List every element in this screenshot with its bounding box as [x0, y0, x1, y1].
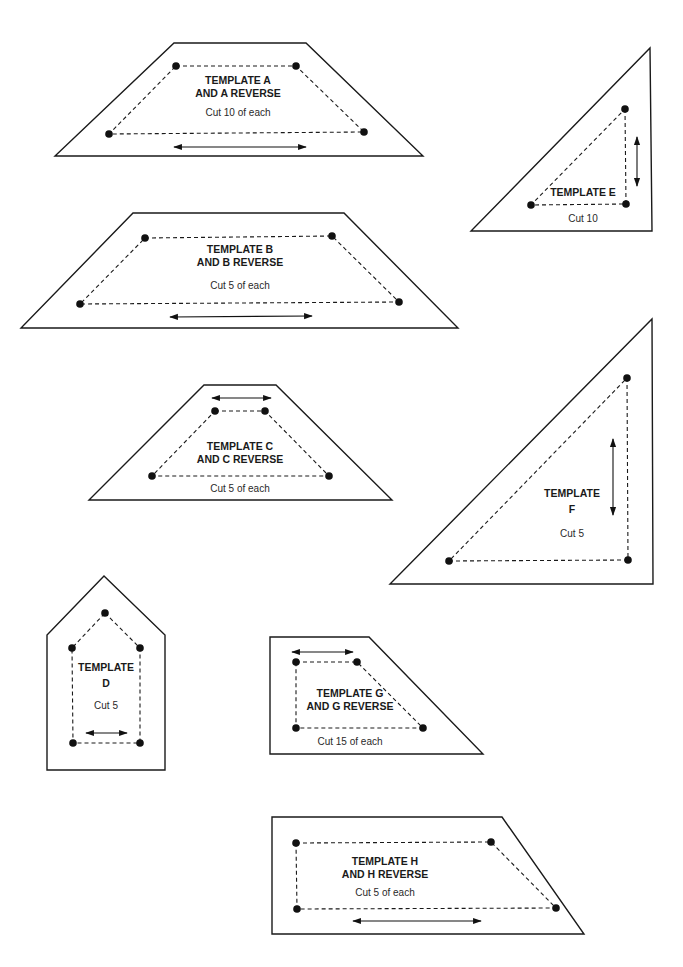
template-f: TEMPLATEFCut 5 — [390, 319, 653, 584]
corner-dot-icon — [292, 839, 300, 847]
corner-dot-icon — [69, 739, 77, 747]
template-f-title: TEMPLATE — [544, 487, 600, 499]
template-c-title: TEMPLATE C — [207, 440, 274, 452]
corner-dot-icon — [68, 644, 76, 652]
template-d-title: TEMPLATE — [78, 661, 134, 673]
corner-dot-icon — [487, 838, 495, 846]
template-d: TEMPLATEDCut 5 — [47, 576, 165, 770]
corner-dot-icon — [101, 609, 109, 617]
template-a-title: TEMPLATE A — [205, 74, 271, 86]
template-g-cut-count: Cut 15 of each — [317, 736, 382, 747]
corner-dot-icon — [395, 298, 403, 306]
template-c: TEMPLATE CAND C REVERSECut 5 of each — [89, 385, 392, 500]
corner-dot-icon — [622, 200, 630, 208]
template-f-title: F — [569, 503, 576, 515]
template-e: TEMPLATE ECut 10 — [471, 48, 652, 231]
template-a-cutting-line — [55, 43, 423, 156]
template-a-title: AND A REVERSE — [195, 87, 281, 99]
corner-dot-icon — [621, 105, 629, 113]
template-g: TEMPLATE GAND G REVERSECut 15 of each — [270, 637, 483, 754]
corner-dot-icon — [211, 407, 219, 415]
template-d-cutting-line — [47, 576, 165, 770]
corner-dot-icon — [623, 374, 631, 382]
template-a: TEMPLATE AAND A REVERSECut 10 of each — [55, 43, 423, 156]
corner-dot-icon — [148, 472, 156, 480]
template-h: TEMPLATE HAND H REVERSECut 5 of each — [272, 817, 584, 934]
template-b-cutting-line — [21, 213, 458, 328]
template-b: TEMPLATE BAND B REVERSECut 5 of each — [21, 213, 458, 328]
template-e-title: TEMPLATE E — [550, 186, 616, 198]
corner-dot-icon — [360, 128, 368, 136]
corner-dot-icon — [527, 201, 535, 209]
corner-dot-icon — [141, 234, 149, 242]
template-f-cut-count: Cut 5 — [560, 528, 584, 539]
corner-dot-icon — [325, 472, 333, 480]
corner-dot-icon — [353, 658, 361, 666]
template-g-title: AND G REVERSE — [307, 700, 394, 712]
template-d-cut-count: Cut 5 — [94, 700, 118, 711]
template-g-title: TEMPLATE G — [317, 687, 384, 699]
corner-dot-icon — [328, 232, 336, 240]
template-c-title: AND C REVERSE — [197, 453, 283, 465]
corner-dot-icon — [552, 904, 560, 912]
template-h-title: AND H REVERSE — [342, 868, 428, 880]
corner-dot-icon — [136, 739, 144, 747]
template-b-title: TEMPLATE B — [207, 243, 274, 255]
corner-dot-icon — [293, 905, 301, 913]
template-b-cut-count: Cut 5 of each — [210, 280, 269, 291]
template-h-title: TEMPLATE H — [352, 855, 418, 867]
corner-dot-icon — [419, 724, 427, 732]
template-c-cut-count: Cut 5 of each — [210, 483, 269, 494]
template-d-title: D — [102, 677, 110, 689]
template-sheet: TEMPLATE AAND A REVERSECut 10 of eachTEM… — [0, 0, 683, 967]
corner-dot-icon — [172, 62, 180, 70]
corner-dot-icon — [105, 130, 113, 138]
corner-dot-icon — [445, 557, 453, 565]
template-h-cut-count: Cut 5 of each — [355, 887, 414, 898]
corner-dot-icon — [76, 300, 84, 308]
templates-group: TEMPLATE AAND A REVERSECut 10 of eachTEM… — [21, 43, 653, 934]
corner-dot-icon — [624, 556, 632, 564]
template-a-cut-count: Cut 10 of each — [205, 107, 270, 118]
corner-dot-icon — [292, 724, 300, 732]
template-e-cut-count: Cut 10 — [568, 213, 598, 224]
template-b-title: AND B REVERSE — [197, 256, 283, 268]
corner-dot-icon — [292, 62, 300, 70]
corner-dot-icon — [292, 658, 300, 666]
corner-dot-icon — [261, 407, 269, 415]
corner-dot-icon — [136, 644, 144, 652]
